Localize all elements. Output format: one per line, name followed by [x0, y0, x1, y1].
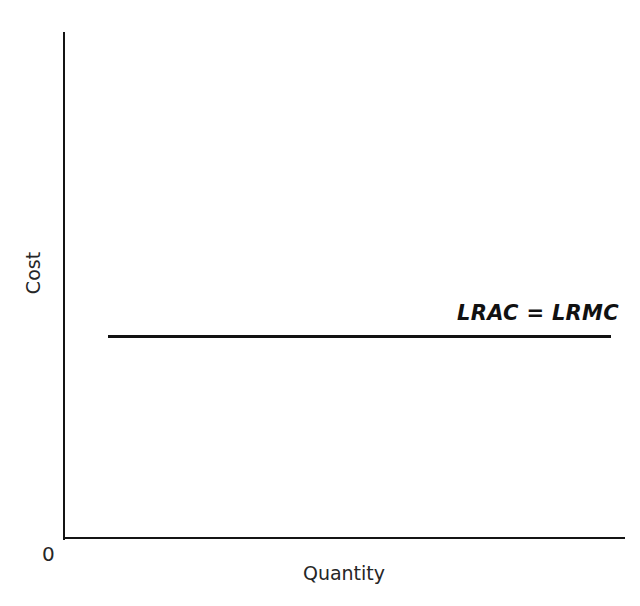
origin-label: 0	[42, 542, 55, 566]
lrac-lrmc-curve-label: LRAC = LRMC	[457, 301, 619, 325]
lrac-lrmc-curve	[108, 335, 611, 338]
cost-curve-figure: LRAC = LRMC Cost Quantity 0	[0, 0, 640, 606]
y-axis-line	[63, 32, 65, 540]
x-axis-title: Quantity	[244, 562, 444, 584]
x-axis-line	[63, 537, 625, 539]
y-axis-title: Cost	[22, 240, 44, 306]
